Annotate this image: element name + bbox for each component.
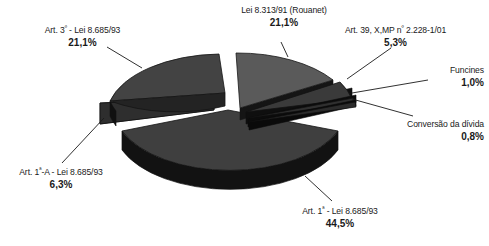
callout-value-art3-lei8685: 21,1% xyxy=(20,37,145,48)
leader-line-art1-lei8685 xyxy=(305,176,332,201)
callout-value-funcines: 1,0% xyxy=(369,77,484,88)
leader-line-conversao-divida xyxy=(352,99,413,116)
callout-rouanet: Lei 8.313/91 (Rouanet) 21,1% xyxy=(214,6,354,28)
callout-conversao-divida: Conversão da dívida 0,8% xyxy=(364,120,484,142)
leader-line-art1a-lei8685 xyxy=(62,118,104,163)
callout-value-art1a-lei8685: 6,3% xyxy=(2,179,120,190)
callout-label-art3-lei8685: Art. 3º - Lei 8.685/93 xyxy=(20,26,145,36)
callout-label-funcines: Funcines xyxy=(369,66,484,76)
callout-value-art1-lei8685: 44,5% xyxy=(278,218,402,229)
pie-chart-figure: Lei 8.313/91 (Rouanet) 21,1% Art. 3º - L… xyxy=(0,0,489,246)
callout-art1-lei8685: Art. 1ª - Lei 8.685/93 44,5% xyxy=(278,207,402,229)
callout-art39-mp: Art. 39, X,MP nº 2.228-1/01 5,3% xyxy=(333,26,458,48)
callout-value-conversao-divida: 0,8% xyxy=(364,131,484,142)
leader-line-art3-lei8685 xyxy=(107,47,142,68)
callout-art1a-lei8685: Art. 1ª-A - Lei 8.685/93 6,3% xyxy=(2,168,120,190)
callout-label-conversao-divida: Conversão da dívida xyxy=(364,120,484,130)
callout-value-art39-mp: 5,3% xyxy=(333,37,458,48)
leader-line-rouanet xyxy=(281,42,288,57)
callout-label-art1-lei8685: Art. 1ª - Lei 8.685/93 xyxy=(278,207,402,217)
callout-art3-lei8685: Art. 3º - Lei 8.685/93 21,1% xyxy=(20,26,145,48)
callout-label-rouanet: Lei 8.313/91 (Rouanet) xyxy=(214,6,354,16)
callout-label-art39-mp: Art. 39, X,MP nº 2.228-1/01 xyxy=(333,26,458,36)
callout-label-art1a-lei8685: Art. 1ª-A - Lei 8.685/93 xyxy=(2,168,120,178)
callout-funcines: Funcines 1,0% xyxy=(369,66,484,88)
pie-slice-art1-lei8685[interactable] xyxy=(122,110,338,189)
